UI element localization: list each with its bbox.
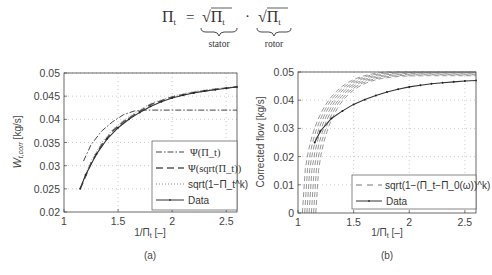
y-tick-label: 0	[288, 207, 294, 219]
data-point	[386, 91, 388, 93]
y-tick-label: 0.05	[40, 67, 61, 79]
data-point	[106, 138, 108, 140]
panel-label-a: (a)	[144, 250, 156, 261]
data-point	[128, 118, 130, 120]
stator-label: stator	[208, 39, 230, 49]
legend-marker-data-b	[368, 200, 370, 202]
data-point	[193, 92, 195, 94]
legend-label-sqrt: sqrt(1−Π_t^k)	[188, 179, 248, 190]
x-tick-label: 1	[295, 216, 301, 228]
data-point	[397, 88, 399, 90]
equation-term-rotor: √Πt	[258, 8, 281, 27]
y-axis-label-a: Wt,corr [kg/s]	[11, 115, 24, 168]
y-tick-label: 0.02	[274, 151, 295, 163]
x-axis-label-a: 1/Πt [–]	[134, 227, 166, 239]
chart-a: 11.522.50.020.0250.030.0350.040.0450.05 …	[11, 67, 248, 261]
legend-marker-data-a	[169, 199, 171, 201]
legend-a: Ψ(Π_t) Ψ(sqrt(Π_t)) sqrt(1−Π_t^k) Data	[152, 141, 248, 210]
equation-term-stator: √Πt	[202, 8, 225, 27]
figure: Πt = √Πt · √Πt stator rotor 11.522.50.02…	[0, 0, 492, 275]
legend-b: sqrt(1−(Π_t−Π_0(ω))^k) Data	[352, 175, 490, 209]
y-tick-label: 0.02	[40, 206, 61, 218]
data-point	[342, 110, 344, 112]
data-point	[204, 90, 206, 92]
data-point	[314, 142, 316, 144]
y-tick-label: 0.025	[34, 183, 60, 195]
data-point	[364, 99, 366, 101]
data-point	[408, 86, 410, 88]
x-tick-label: 2.5	[219, 215, 234, 227]
x-tick-label: 2	[169, 215, 175, 227]
x-axis-label-b: 1/Πt [–]	[371, 227, 403, 239]
data-point	[85, 174, 87, 176]
data-point	[139, 111, 141, 113]
underbrace-rotor	[257, 28, 291, 36]
equation-dot: ·	[245, 8, 250, 24]
data-point	[375, 94, 377, 96]
y-tick-label: 0.045	[34, 90, 60, 102]
y-tick-label: 0.04	[40, 113, 61, 125]
data-point	[225, 87, 227, 89]
data-point	[464, 80, 466, 82]
data-point	[160, 101, 162, 103]
data-point	[453, 81, 455, 83]
legend-label-psi-sqrt: Ψ(sqrt(Π_t))	[188, 163, 242, 175]
legend-label-data-b: Data	[386, 196, 408, 207]
y-tick-label: 0.01	[274, 179, 295, 191]
x-tick-label: 2.5	[458, 216, 473, 228]
y-tick-label: 0.03	[274, 122, 295, 134]
x-tick-label: 1.5	[111, 215, 126, 227]
data-point	[79, 188, 81, 190]
x-tick-label: 2	[406, 216, 412, 228]
underbrace-stator	[201, 28, 237, 36]
data-point	[95, 153, 97, 155]
data-point	[214, 89, 216, 91]
data-point	[431, 83, 433, 85]
data-point	[419, 84, 421, 86]
legend-label-data-a: Data	[188, 195, 210, 206]
y-tick-label: 0.04	[274, 94, 295, 106]
data-point	[442, 82, 444, 84]
legend-label-psi: Ψ(Π_t)	[190, 147, 221, 159]
equation-equals: =	[186, 9, 194, 25]
y-tick-label: 0.05	[274, 66, 295, 78]
data-point	[150, 105, 152, 107]
y-axis-label-b: Corrected flow [kg/s]	[255, 96, 266, 187]
legend-label-model: sqrt(1−(Π_t−Π_0(ω))^k)	[385, 180, 490, 191]
x-tick-label: 1.5	[346, 216, 361, 228]
panel-label-b: (b)	[381, 250, 393, 261]
data-point	[330, 118, 332, 120]
data-point	[182, 94, 184, 96]
chart-b: 11.522.500.010.020.030.040.05 sqrt(1−(Π_…	[255, 66, 490, 261]
rotor-label: rotor	[265, 39, 284, 49]
data-point	[117, 127, 119, 129]
equation: Πt = √Πt · √Πt stator rotor	[162, 8, 291, 49]
y-tick-label: 0.03	[40, 160, 61, 172]
y-tick-label: 0.035	[34, 137, 60, 149]
equation-lhs: Πt	[162, 8, 177, 27]
series-line-data	[315, 81, 476, 143]
data-point	[171, 97, 173, 99]
data-point	[319, 130, 321, 132]
data-point	[353, 103, 355, 105]
x-tick-label: 1	[61, 215, 67, 227]
